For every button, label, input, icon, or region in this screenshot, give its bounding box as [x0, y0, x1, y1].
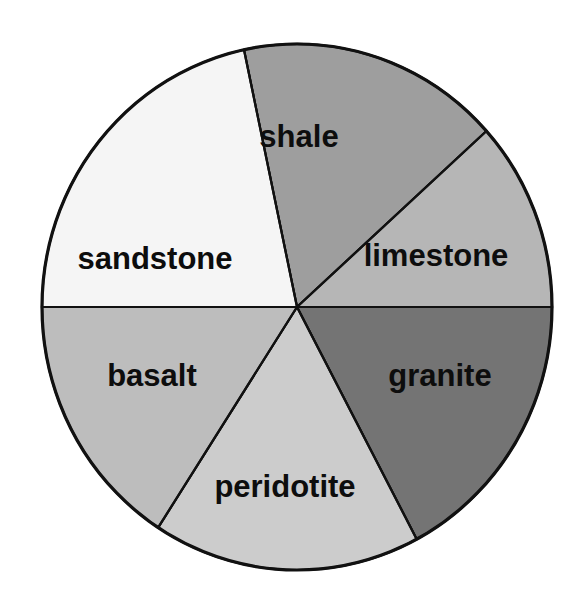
slice-label-granite: granite: [388, 358, 491, 393]
slice-label-limestone: limestone: [364, 238, 509, 273]
slice-label-sandstone: sandstone: [77, 241, 232, 276]
slice-label-basalt: basalt: [107, 358, 197, 393]
slice-label-shale: shale: [259, 119, 338, 154]
rock-wheel-figure: shale limestone granite peridotite basal…: [0, 0, 579, 601]
slice-label-peridotite: peridotite: [214, 469, 355, 504]
pie-wheel-svg: shale limestone granite peridotite basal…: [0, 0, 579, 601]
